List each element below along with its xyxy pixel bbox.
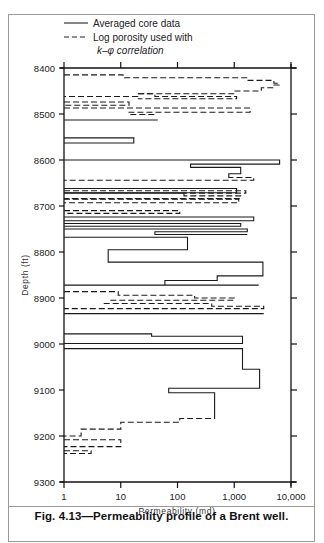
data-series — [64, 75, 280, 454]
legend-label-log-cont: k–φ correlation — [97, 45, 164, 56]
log-porosity-trace — [64, 75, 279, 97]
log-porosity-trace — [64, 292, 234, 301]
y-tick-label: 8400 — [34, 63, 55, 74]
log-porosity-trace — [64, 413, 215, 436]
x-tick-label: 1,000 — [222, 491, 246, 502]
core-data-trace — [64, 229, 247, 235]
core-data-trace — [64, 224, 241, 227]
log-porosity-trace — [64, 451, 91, 454]
core-data-trace — [64, 334, 243, 344]
legend: Averaged core data Log porosity used wit… — [64, 18, 193, 56]
permeability-chart: Averaged core data Log porosity used wit… — [0, 0, 324, 543]
y-tick-label: 9100 — [34, 385, 55, 396]
log-porosity-trace — [64, 211, 180, 214]
log-porosity-trace — [64, 440, 121, 447]
y-tick-label: 8500 — [34, 109, 55, 120]
y-tick-label: 8700 — [34, 201, 55, 212]
legend-label-log: Log porosity used with — [93, 32, 193, 43]
log-porosity-trace — [64, 108, 250, 115]
y-axis-title: Depth (ft) — [20, 254, 30, 295]
y-tick-label: 9300 — [34, 477, 55, 488]
log-porosity-trace — [64, 191, 246, 199]
x-tick-label: 100 — [170, 491, 186, 502]
log-porosity-trace — [64, 199, 239, 203]
log-porosity-trace — [64, 102, 129, 105]
core-data-trace — [64, 138, 134, 143]
y-tick-label: 9200 — [34, 431, 55, 442]
core-data-trace — [64, 217, 254, 221]
y-tick-label: 8600 — [34, 155, 55, 166]
log-porosity-trace — [64, 176, 254, 180]
core-data-trace — [64, 349, 260, 413]
core-data-trace — [64, 237, 263, 285]
figure-caption: Fig. 4.13—Permeability profile of a Bren… — [8, 510, 315, 522]
y-tick-label: 8900 — [34, 293, 55, 304]
x-tick-label: 10,000 — [276, 491, 305, 502]
y-tick-label: 9000 — [34, 339, 55, 350]
caption-divider — [8, 506, 315, 507]
log-porosity-trace — [64, 304, 264, 309]
log-porosity-trace — [138, 94, 237, 99]
y-tick-label: 8800 — [34, 247, 55, 258]
x-tick-label: 10 — [115, 491, 126, 502]
core-data-trace — [64, 160, 280, 176]
x-tick-label: 1 — [61, 491, 66, 502]
legend-label-core: Averaged core data — [93, 18, 181, 29]
